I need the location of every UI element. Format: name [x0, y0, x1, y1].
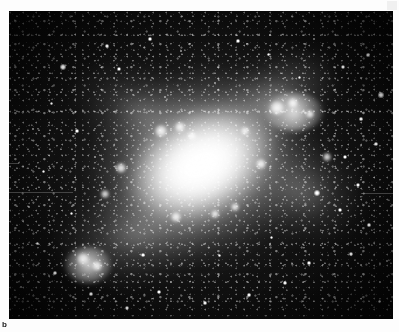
- star-point-source: [60, 64, 66, 70]
- bright-knot: [175, 122, 185, 132]
- bright-knot: [323, 153, 331, 161]
- scanline-left: [9, 192, 73, 193]
- page-corner-mark-icon: [387, 1, 397, 10]
- star-point-source: [148, 37, 151, 40]
- figure-label: b: [2, 320, 7, 329]
- star-point-source: [203, 301, 206, 304]
- star-point-source: [378, 300, 381, 303]
- star-point-source: [338, 208, 342, 212]
- star-point-source: [50, 102, 53, 105]
- star-point-source: [359, 117, 362, 120]
- star-point-source: [247, 293, 250, 296]
- star-point-source: [270, 236, 273, 239]
- star-point-source: [367, 223, 370, 226]
- star-point-source: [42, 170, 45, 173]
- star-point-source: [307, 261, 310, 264]
- star-point-source: [89, 292, 92, 295]
- star-point-source: [236, 39, 239, 42]
- star-point-source: [75, 129, 78, 132]
- star-point-source: [218, 254, 221, 257]
- star-point-source: [366, 53, 369, 56]
- star-point-source: [267, 53, 270, 56]
- bright-knot: [241, 127, 249, 135]
- star-point-source: [141, 253, 145, 257]
- star-point-source: [314, 190, 320, 196]
- star-point-source: [53, 271, 57, 275]
- bright-knot: [231, 203, 239, 211]
- star-point-source: [374, 142, 378, 146]
- bright-knot: [211, 210, 219, 218]
- star-point-source: [36, 242, 39, 245]
- star-point-source: [378, 92, 383, 97]
- star-point-source: [298, 76, 301, 79]
- star-cluster-southwest: [65, 247, 111, 283]
- figure-plate-image: [9, 11, 393, 319]
- star-point-source: [349, 252, 353, 256]
- page-background: b: [0, 0, 399, 332]
- star-point-source: [343, 155, 347, 159]
- star-point-source: [70, 212, 73, 215]
- scanline-right: [361, 193, 393, 194]
- star-cluster-northeast: [265, 93, 323, 131]
- bright-knot: [171, 212, 181, 222]
- star-point-source: [105, 44, 109, 48]
- bright-knot: [116, 163, 126, 173]
- bright-knot: [188, 132, 196, 140]
- bright-knot: [101, 190, 109, 198]
- star-point-source: [157, 290, 161, 294]
- bright-knot: [256, 159, 266, 169]
- bright-knot: [155, 125, 167, 137]
- star-point-source: [283, 281, 287, 285]
- scanline-edge: [9, 163, 19, 164]
- star-point-source: [341, 65, 345, 69]
